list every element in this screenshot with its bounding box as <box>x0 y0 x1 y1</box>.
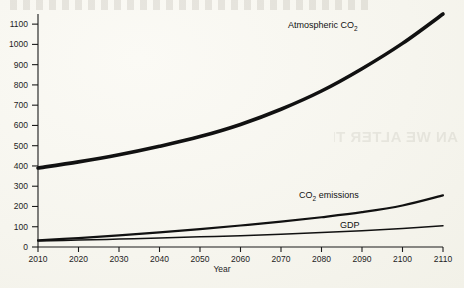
series-line-co2-emissions <box>38 195 443 240</box>
y-tick-label: 400 <box>14 161 28 171</box>
x-axis-title: Year <box>213 264 230 274</box>
y-tick-label: 100 <box>14 222 28 232</box>
y-tick-label: 600 <box>14 120 28 130</box>
y-tick-label: 0 <box>23 242 28 252</box>
x-tick-label: 2020 <box>69 254 88 264</box>
x-tick-label: 2100 <box>393 254 412 264</box>
x-tick-label: 2090 <box>353 254 372 264</box>
y-tick-label: 900 <box>14 60 28 70</box>
y-tick-label: 300 <box>14 181 28 191</box>
x-axis-tick-labels: 2010202020302040205020602070208020902100… <box>29 254 453 264</box>
y-tick-label: 1100 <box>10 19 29 29</box>
line-chart: 010020030040050060070080090010001100 201… <box>0 0 464 288</box>
x-tick-label: 2010 <box>29 254 48 264</box>
y-tick-label: 1000 <box>9 39 28 49</box>
series-line-gdp <box>38 226 443 241</box>
x-tick-label: 2110 <box>434 254 453 264</box>
x-axis-ticks <box>38 247 443 252</box>
x-tick-label: 2080 <box>312 254 331 264</box>
x-tick-label: 2050 <box>191 254 210 264</box>
series-label-gdp: GDP <box>340 220 360 230</box>
y-axis-tick-labels: 010020030040050060070080090010001100 <box>9 19 28 252</box>
y-tick-label: 700 <box>14 100 28 110</box>
x-tick-label: 2040 <box>150 254 169 264</box>
y-tick-label: 200 <box>14 201 28 211</box>
series-label-atmospheric-co2: Atmospheric CO2 <box>288 20 358 32</box>
x-axis: 2010202020302040205020602070208020902100… <box>29 247 453 274</box>
x-tick-label: 2030 <box>110 254 129 264</box>
series-line-atmospheric-co2 <box>38 14 443 168</box>
y-tick-label: 500 <box>14 141 28 151</box>
x-tick-label: 2060 <box>231 254 250 264</box>
series-group <box>38 14 443 241</box>
x-tick-label: 2070 <box>272 254 291 264</box>
y-axis: 010020030040050060070080090010001100 <box>9 14 38 252</box>
y-axis-ticks <box>32 24 38 247</box>
series-label-co2-emissions: CO2 emissions <box>299 190 359 202</box>
y-tick-label: 800 <box>14 80 28 90</box>
